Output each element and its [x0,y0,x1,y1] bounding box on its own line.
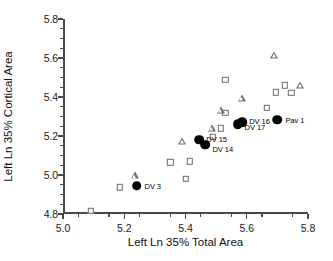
y-tick-label: 5.2 [44,130,58,142]
y-tick-major [58,96,63,97]
y-tick-minor [60,48,63,49]
y-tick-label: 5.4 [44,91,58,103]
x-tick-minor [139,214,140,217]
y-tick-minor [60,145,63,146]
x-tick-major [246,214,247,219]
y-tick-minor [60,67,63,68]
plot-area: 4.85.05.25.45.65.85.05.25.45.65.8 DV 3DV… [63,19,308,214]
data-point-square [288,90,294,96]
y-axis-title: Left Ln 35% Cortical Area [2,19,16,214]
x-tick-major [185,214,186,219]
data-point-label: DV 15 [206,134,227,143]
data-point-circle [237,117,247,127]
y-tick-minor [60,77,63,78]
y-tick-minor [60,106,63,107]
x-tick-minor [200,214,201,217]
y-tick-major [58,18,63,19]
y-axis-line [63,19,65,214]
x-tick-label: 5.6 [240,222,254,234]
data-point-square [187,158,193,164]
x-tick-minor [170,214,171,217]
y-tick-label: 5.8 [44,13,58,25]
y-tick-minor [60,126,63,127]
y-tick-minor [60,165,63,166]
y-tick-major [58,135,63,136]
y-tick-label: 5.0 [44,169,58,181]
data-point-label: Pav 1 [285,115,304,124]
x-tick-major [307,214,308,219]
x-tick-label: 5.8 [301,222,315,234]
data-point-triangle [270,52,278,59]
x-tick-label: 5.4 [178,222,192,234]
x-tick-label: 5.0 [56,222,70,234]
data-point-triangle [178,137,186,144]
x-tick-label: 5.2 [117,222,131,234]
data-point-label: DV 16 [249,116,270,125]
data-point-triangle [238,94,246,101]
y-tick-label: 5.6 [44,52,58,64]
x-axis-title: Left Ln 35% Total Area [63,236,308,248]
data-point-triangle [131,172,139,179]
x-tick-minor [231,214,232,217]
data-point-circle [194,135,204,145]
data-point-square [273,89,279,95]
data-point-square [222,77,228,83]
y-tick-minor [60,184,63,185]
x-tick-minor [292,214,293,217]
x-tick-major [124,214,125,219]
data-point-label: DV 3 [145,181,161,190]
y-tick-label: 4.8 [44,208,58,220]
x-tick-minor [261,214,262,217]
y-tick-minor [60,28,63,29]
data-point-label: DV 14 [212,144,233,153]
data-point-square [218,125,224,131]
x-tick-minor [78,214,79,217]
y-tick-minor [60,38,63,39]
y-tick-minor [60,116,63,117]
x-tick-major [62,214,63,219]
data-point-square [167,159,173,165]
y-tick-minor [60,87,63,88]
data-point-square [182,175,188,181]
x-tick-minor [108,214,109,217]
y-tick-minor [60,155,63,156]
data-point-triangle [296,82,304,89]
data-point-square [282,82,288,88]
y-tick-major [58,57,63,58]
scatter-plot-figure: 4.85.05.25.45.65.85.05.25.45.65.8 DV 3DV… [0,0,333,261]
data-point-triangle [208,125,216,132]
y-tick-minor [60,204,63,205]
data-point-square [116,184,122,190]
data-point-triangle [217,106,225,113]
data-point-square [87,208,93,214]
y-tick-minor [60,194,63,195]
data-point-square [263,105,269,111]
y-tick-major [58,174,63,175]
data-point-circle [132,181,142,191]
data-point-circle [273,115,283,125]
